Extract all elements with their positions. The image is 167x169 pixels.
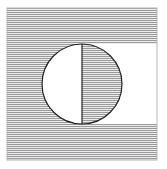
venn-style-region-diagram: [0, 0, 167, 169]
